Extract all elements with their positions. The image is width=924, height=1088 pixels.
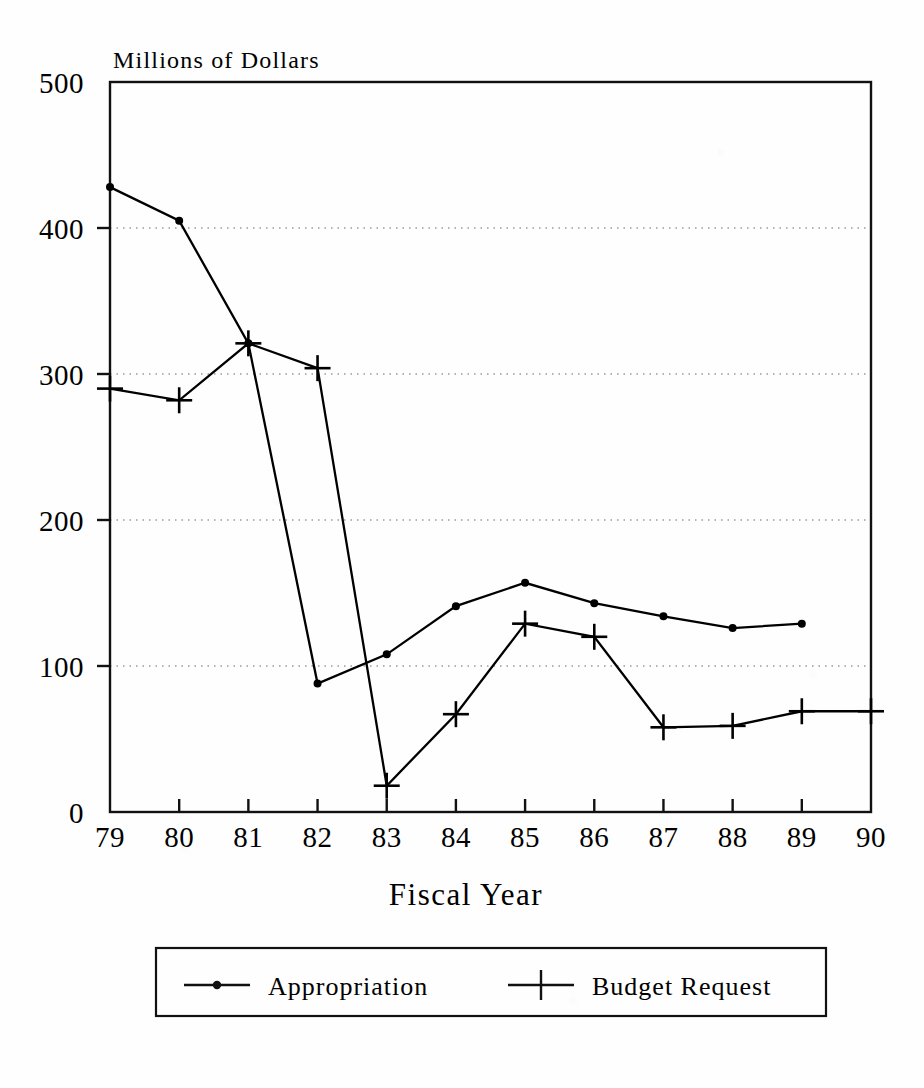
y-axis-tick-labels: 0100200300400500	[39, 67, 84, 829]
x-axis-tick-labels: 798081828384858687888990	[95, 821, 886, 853]
legend-label-budget-request: Budget Request	[592, 972, 771, 1001]
x-tick-label: 89	[787, 821, 817, 853]
chart-title: Millions of Dollars	[113, 47, 320, 73]
x-tick-label: 81	[233, 821, 263, 853]
dot-marker-icon	[452, 602, 460, 610]
chart-legend: Appropriation Budget Request	[156, 948, 826, 1016]
line-chart: 0100200300400500 79808182838485868788899…	[0, 0, 924, 1088]
plus-marker-icon	[97, 376, 123, 402]
plus-marker-icon	[166, 387, 192, 413]
y-tick-label: 500	[39, 67, 84, 99]
x-tick-label: 90	[856, 821, 886, 853]
x-tick-label: 84	[441, 821, 471, 853]
series-appropriation	[106, 183, 806, 687]
dot-marker-icon	[106, 183, 114, 191]
plus-marker-icon	[305, 355, 331, 381]
x-tick-label: 82	[303, 821, 333, 853]
legend-label-appropriation: Appropriation	[268, 972, 428, 1001]
plus-marker-icon	[720, 713, 746, 739]
plus-marker-icon	[650, 714, 676, 740]
dot-marker-icon	[213, 981, 221, 989]
plus-marker-icon	[235, 330, 261, 356]
plus-marker-icon	[581, 624, 607, 650]
legend-item-budget-request: Budget Request	[508, 970, 771, 1001]
y-tick-label: 100	[39, 651, 84, 683]
plus-marker-icon	[858, 698, 884, 724]
plot-frame	[110, 82, 871, 812]
x-tick-label: 88	[718, 821, 748, 853]
x-tick-label: 79	[95, 821, 125, 853]
chart-page: 0100200300400500 79808182838485868788899…	[0, 0, 924, 1088]
x-tick-label: 86	[579, 821, 609, 853]
plus-marker-icon	[512, 611, 538, 637]
dot-marker-icon	[383, 650, 391, 658]
x-tick-label: 87	[648, 821, 678, 853]
dot-marker-icon	[590, 599, 598, 607]
dot-marker-icon	[659, 612, 667, 620]
dot-marker-icon	[798, 620, 806, 628]
dot-marker-icon	[175, 217, 183, 225]
y-tick-label: 300	[39, 359, 84, 391]
dot-marker-icon	[314, 680, 322, 688]
y-axis-ticks	[97, 228, 110, 666]
x-axis-label: Fiscal Year	[389, 877, 543, 912]
y-tick-label: 200	[39, 505, 84, 537]
x-axis-ticks	[179, 799, 802, 812]
gridlines	[110, 228, 871, 666]
legend-item-appropriation: Appropriation	[184, 972, 428, 1001]
y-tick-label: 0	[69, 797, 84, 829]
x-tick-label: 83	[372, 821, 402, 853]
x-tick-label: 80	[164, 821, 194, 853]
dot-marker-icon	[521, 579, 529, 587]
dot-marker-icon	[729, 624, 737, 632]
y-tick-label: 400	[39, 213, 84, 245]
series-budget-request	[97, 330, 884, 798]
x-tick-label: 85	[510, 821, 540, 853]
data-series-layer	[97, 183, 884, 799]
plus-marker-icon	[789, 698, 815, 724]
